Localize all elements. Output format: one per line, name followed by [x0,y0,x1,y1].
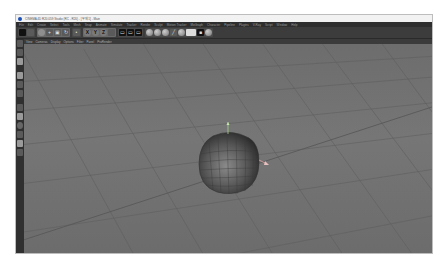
menu-create[interactable]: Create [37,23,46,27]
render-picture-viewer-icon[interactable]: ▭ [127,29,134,36]
menu-mograph[interactable]: MoGraph [191,23,204,27]
menu-plugins[interactable]: Plugins [239,23,249,27]
menu-sculpt[interactable]: Sculpt [154,23,162,27]
camera-icon[interactable]: ■ [197,29,204,36]
menu-tools[interactable]: Tools [62,23,69,27]
workplane-icon[interactable] [17,131,23,138]
rotate-icon[interactable]: ↻ [62,29,69,36]
menu-edit[interactable]: Edit [28,23,33,27]
menu-simulate[interactable]: Simulate [111,23,123,27]
menu-window[interactable]: Window [277,23,288,27]
cube-object-icon[interactable] [146,29,153,36]
menu-render[interactable]: Render [141,23,151,27]
scale-icon[interactable]: ▣ [54,29,61,36]
app-logo-icon [18,17,22,21]
axis-lock-group: X Y Z [83,28,116,37]
main-toolbar: + ▣ ↻ • X Y Z ▭ ▭ ▭ ╱ ■ [16,27,432,39]
deformer-icon[interactable] [178,29,185,36]
title-bar: CINEMA 4D R20.059 Studio (RC - R20) - [무… [16,15,432,22]
subdivided-cube-object[interactable] [191,122,271,200]
menu-snap[interactable]: Snap [85,23,92,27]
points-mode-icon[interactable] [17,72,23,79]
axis-mode-icon[interactable] [17,104,23,111]
menu-script[interactable]: Script [265,23,273,27]
viewport-menu-display[interactable]: Display [51,40,61,44]
x-axis-lock-button[interactable]: X [84,29,91,36]
viewport-menu-panel[interactable]: Panel [86,40,94,44]
make-editable-icon[interactable] [17,40,23,47]
model-mode-icon[interactable] [17,49,23,56]
texture-mode-icon[interactable] [17,58,23,65]
window-title: CINEMA 4D R20.059 Studio (RC - R20) - [무… [25,17,100,21]
menu-animate[interactable]: Animate [96,23,107,27]
z-axis-lock-button[interactable]: Z [100,29,107,36]
create-objects-group: ╱ ■ [145,28,213,37]
cinema4d-window: CINEMA 4D R20.059 Studio (RC - R20) - [무… [15,14,433,254]
perspective-viewport[interactable] [24,44,432,253]
locked-workplane-icon[interactable] [17,149,23,156]
recent-tool-icon[interactable]: • [73,29,80,36]
viewport-menu-options[interactable]: Options [63,40,73,44]
floor-icon[interactable] [186,29,196,36]
undo-icon[interactable] [19,29,26,36]
coordinate-system-icon[interactable] [108,29,115,36]
edges-mode-icon[interactable] [17,81,23,88]
menu-mesh[interactable]: Mesh [73,23,80,27]
menu-pipeline[interactable]: Pipeline [224,23,235,27]
snap-icon[interactable] [17,122,23,129]
redo-icon[interactable] [27,29,34,36]
viewport-menu-cameras[interactable]: Cameras [35,40,47,44]
menu-tracker[interactable]: Tracker [126,23,136,27]
y-axis-lock-button[interactable]: Y [92,29,99,36]
pen-spline-icon[interactable] [154,29,161,36]
undo-group [18,28,35,37]
menu-select[interactable]: Select [50,23,58,27]
transform-tools: + ▣ ↻ [37,28,70,37]
light-icon[interactable] [205,29,212,36]
live-selection-icon[interactable] [38,29,45,36]
move-icon[interactable]: + [46,29,53,36]
viewport-menu-filter[interactable]: Filter [77,40,84,44]
render-group: ▭ ▭ ▭ [118,28,143,37]
render-view-icon[interactable]: ▭ [119,29,126,36]
viewport-menu-view[interactable]: View [26,40,32,44]
polygons-mode-icon[interactable] [17,90,23,97]
planar-workplane-icon[interactable] [17,140,23,147]
array-icon[interactable]: ╱ [170,29,177,36]
tweak-mode-icon[interactable] [17,113,23,120]
menu-file[interactable]: File [19,23,24,27]
subdivision-surface-icon[interactable] [162,29,169,36]
left-mode-toolbar [16,39,24,254]
viewport-menu-prorender[interactable]: ProRender [97,40,112,44]
menu-help[interactable]: Help [291,23,297,27]
menu-motion-tracker[interactable]: Motion Tracker [167,23,187,27]
menu-character[interactable]: Character [207,23,220,27]
render-settings-icon[interactable]: ▭ [135,29,142,36]
last-tool-group: • [72,28,81,37]
menu-vray[interactable]: V-Ray [253,23,261,27]
